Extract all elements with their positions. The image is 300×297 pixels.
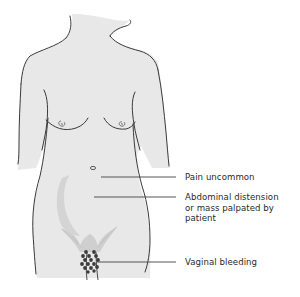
annotation-abdominal-distension: Abdominal distension or mass palpated by… xyxy=(185,192,279,224)
annotation-text: Vaginal bleeding xyxy=(185,257,257,267)
annotation-text-line-1: Abdominal distension xyxy=(185,192,279,203)
annotation-vaginal-bleeding: Vaginal bleeding xyxy=(185,257,257,268)
annotation-text: Pain uncommon xyxy=(185,172,255,182)
annotation-text-line-3: patient xyxy=(185,213,279,224)
annotation-text-line-2: or mass palpated by xyxy=(185,203,279,214)
torso-illustration xyxy=(0,0,300,297)
annotation-pain-uncommon: Pain uncommon xyxy=(185,172,255,183)
